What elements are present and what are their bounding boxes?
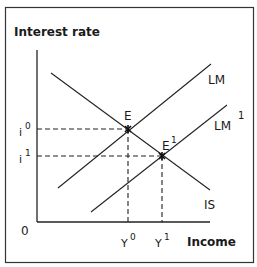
y0-label: Y	[120, 237, 128, 250]
y1-superscript: 1	[164, 232, 170, 242]
e1-superscript: 1	[171, 135, 177, 145]
is-label: IS	[204, 198, 215, 212]
lm-curve	[58, 64, 211, 188]
y-axis-label: Interest rate	[14, 25, 100, 39]
is-lm-diagram: Interest rate Income 0 LM LM 1 IS E E 1 …	[0, 0, 257, 267]
e1-label: E	[162, 139, 170, 153]
lm-label: LM	[208, 73, 225, 87]
lm1-superscript: 1	[238, 110, 244, 121]
frame-border	[6, 8, 254, 263]
i0-label: i	[19, 126, 22, 139]
i0-superscript: 0	[25, 121, 31, 131]
y0-superscript: 0	[130, 232, 136, 242]
y1-label: Y	[154, 237, 162, 250]
e-label: E	[124, 109, 132, 123]
origin-label: 0	[21, 224, 29, 238]
i1-superscript: 1	[25, 148, 31, 158]
x-axis-label: Income	[187, 235, 236, 249]
i1-label: i	[19, 153, 22, 166]
lm1-label: LM	[214, 119, 231, 133]
